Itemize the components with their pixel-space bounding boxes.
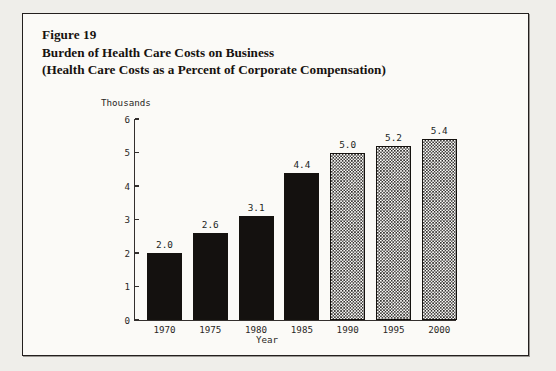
bar-value-label: 5.2 <box>368 132 419 143</box>
bar <box>376 146 411 320</box>
y-axis-tick-label: 0 <box>106 315 130 326</box>
y-axis-tick-label: 3 <box>106 214 130 225</box>
bar-value-label: 5.0 <box>322 139 373 150</box>
y-axis-tick <box>135 286 139 287</box>
x-axis-title-text: Year <box>256 334 278 345</box>
y-axis-tick <box>135 252 139 253</box>
bar-chart: Thousands 0123456 2.02.63.14.45.05.25.4 … <box>0 0 556 371</box>
y-axis-tick-label: 2 <box>106 248 130 259</box>
y-axis-tick <box>135 185 139 186</box>
bar <box>147 253 182 320</box>
y-axis-tick-label: 6 <box>106 114 130 125</box>
y-axis-tick-label: 4 <box>106 181 130 192</box>
bar-value-label: 5.4 <box>414 125 465 136</box>
y-axis-tick <box>135 152 139 153</box>
x-axis-title: Year <box>0 334 556 345</box>
figure-page: Figure 19 Burden of Health Care Costs on… <box>0 0 556 371</box>
bar <box>193 233 228 320</box>
y-axis-tick-label: 1 <box>106 281 130 292</box>
y-axis-tick <box>135 118 139 119</box>
bar-value-label: 2.0 <box>139 239 190 250</box>
y-axis-tick-label: 5 <box>106 147 130 158</box>
bar-value-label: 4.4 <box>276 159 327 170</box>
bar <box>284 173 319 320</box>
bar <box>422 139 457 320</box>
y-axis-tick <box>135 219 139 220</box>
bar-value-label: 2.6 <box>185 219 236 230</box>
bar-value-label: 3.1 <box>231 202 282 213</box>
y-axis-tick <box>135 319 139 320</box>
y-axis-unit-label: Thousands <box>101 97 151 108</box>
bar <box>239 216 274 320</box>
x-axis-line <box>134 320 456 321</box>
bar <box>330 153 365 321</box>
